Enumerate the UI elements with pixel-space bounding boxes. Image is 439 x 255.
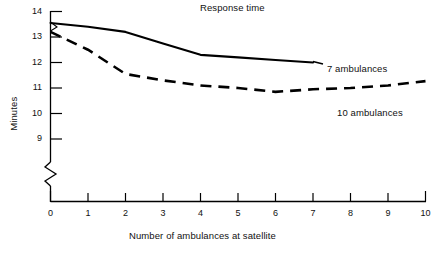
chart-title: Response time xyxy=(200,3,265,13)
series-line-10-ambulances xyxy=(51,32,426,92)
y-axis-break-icon xyxy=(45,162,56,186)
y-tick-label-13: 13 xyxy=(22,32,42,41)
series-label-7-ambulances: 7 ambulances xyxy=(327,64,387,74)
x-tick-label-4: 4 xyxy=(193,209,209,218)
series-solid-leader xyxy=(313,62,323,65)
x-tick-label-5: 5 xyxy=(230,209,246,218)
y-tick-label-14: 14 xyxy=(22,7,42,16)
x-tick-label-7: 7 xyxy=(305,209,321,218)
x-axis-ticks xyxy=(51,191,426,202)
x-tick-label-6: 6 xyxy=(268,209,284,218)
y-tick-label-10: 10 xyxy=(22,109,42,118)
x-tick-label-8: 8 xyxy=(343,209,359,218)
y-tick-label-12: 12 xyxy=(22,58,42,67)
y-axis-ticks xyxy=(51,12,63,140)
x-tick-label-2: 2 xyxy=(118,209,134,218)
y-tick-label-11: 11 xyxy=(22,83,42,92)
series-label-10-ambulances: 10 ambulances xyxy=(337,108,403,118)
x-tick-label-0: 0 xyxy=(43,209,59,218)
x-tick-label-1: 1 xyxy=(80,209,96,218)
y-axis-title: Minutes xyxy=(9,84,19,144)
x-tick-label-3: 3 xyxy=(155,209,171,218)
x-tick-label-10: 10 xyxy=(418,209,434,218)
series-line-7-ambulances xyxy=(51,23,314,63)
x-axis-title: Number of ambulances at satellite xyxy=(129,231,276,241)
chart-figure: Response time Minutes Number of ambulanc… xyxy=(0,0,439,255)
y-tick-label-9: 9 xyxy=(22,134,42,143)
response-time-line-chart xyxy=(0,0,439,255)
x-tick-label-9: 9 xyxy=(380,209,396,218)
